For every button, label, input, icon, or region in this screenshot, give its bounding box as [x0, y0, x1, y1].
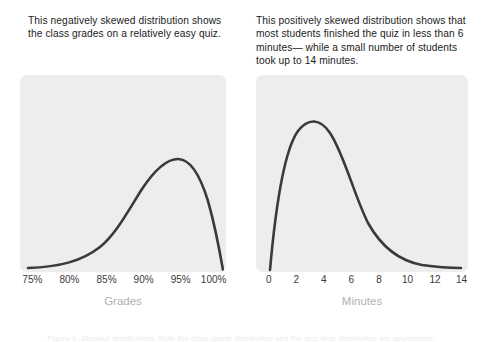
x-tick-minutes-1: 2 — [293, 274, 299, 285]
curve-minutes-svg — [256, 75, 468, 272]
caption-grades: This negatively skewed distribution show… — [28, 14, 228, 41]
panel-grades: This negatively skewed distribution show… — [8, 0, 235, 330]
x-tick-grades-3: 90% — [134, 274, 154, 285]
plot-area-grades — [20, 75, 226, 272]
panel-minutes: This positively skewed distribution show… — [248, 0, 475, 330]
distribution-curve-minutes — [270, 121, 461, 270]
x-tick-grades-0: 75% — [22, 274, 42, 285]
x-axis-minutes: 0 2 4 6 8 10 12 14 — [256, 274, 468, 290]
x-tick-grades-2: 85% — [97, 274, 117, 285]
x-tick-minutes-5: 10 — [402, 274, 413, 285]
x-tick-minutes-3: 6 — [349, 274, 355, 285]
distribution-curve-grades — [28, 159, 223, 270]
x-tick-minutes-2: 4 — [321, 274, 327, 285]
x-tick-grades-5: 100% — [201, 274, 227, 285]
x-axis-grades: 75% 80% 85% 90% 95% 100% — [20, 274, 226, 290]
skewed-distributions-figure: This negatively skewed distribution show… — [0, 0, 483, 342]
x-tick-minutes-6: 12 — [430, 274, 441, 285]
caption-minutes: This positively skewed distribution show… — [256, 14, 472, 68]
axis-title-minutes: Minutes — [256, 295, 468, 307]
x-tick-minutes-7: 14 — [456, 274, 467, 285]
x-tick-grades-4: 95% — [171, 274, 191, 285]
x-tick-minutes-4: 8 — [376, 274, 382, 285]
x-tick-minutes-0: 0 — [266, 274, 272, 285]
x-tick-grades-1: 80% — [59, 274, 79, 285]
clipped-footer-text: Figure 1. Skewed distributions. Both the… — [0, 334, 483, 342]
curve-grades-svg — [20, 75, 226, 272]
axis-title-grades: Grades — [20, 295, 226, 307]
plot-area-minutes — [256, 75, 468, 272]
